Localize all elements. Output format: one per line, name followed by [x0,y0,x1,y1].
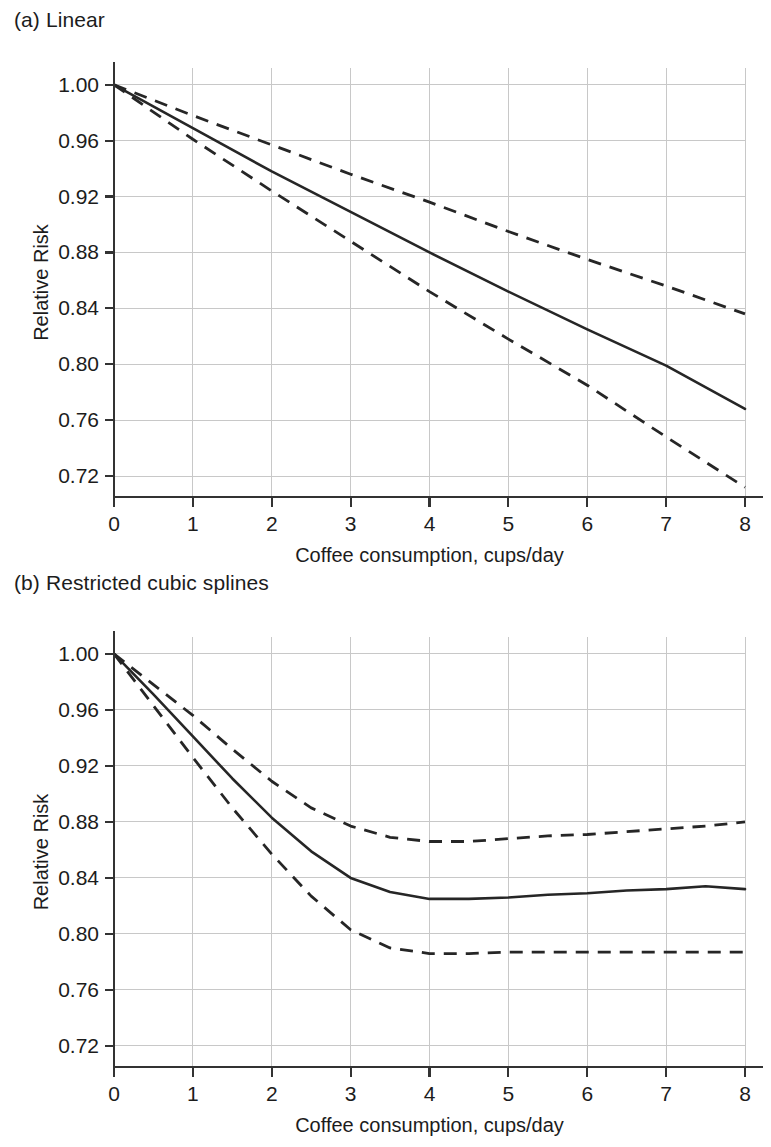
panel-b-title: (b) Restricted cubic splines [14,571,269,595]
y-tick-label: 0.96 [58,698,99,721]
y-tick-label: 0.76 [58,978,99,1001]
y-tick-label: 0.72 [58,464,99,487]
x-tick-label: 3 [345,512,357,535]
x-tick-label: 4 [424,1082,436,1105]
x-axis-title: Coffee consumption, cups/day [295,1114,564,1136]
x-tick-label: 8 [739,512,751,535]
x-tick-label: 2 [266,1082,278,1105]
y-tick-label: 1.00 [58,73,99,96]
y-tick-label: 0.84 [58,866,99,889]
x-tick-label: 2 [266,512,278,535]
x-tick-label: 8 [739,1082,751,1105]
x-tick-label: 3 [345,1082,357,1105]
y-tick-label: 0.84 [58,296,99,319]
x-tick-label: 0 [108,512,120,535]
x-tick-label: 5 [503,1082,515,1105]
y-tick-label: 0.88 [58,810,99,833]
panel-a-plot: 0.720.760.800.840.880.920.961.0001234567… [0,32,771,572]
x-tick-label: 7 [660,1082,672,1105]
x-tick-label: 1 [187,512,199,535]
figure-container: (a) Linear 0.720.760.800.840.880.920.961… [0,0,771,1147]
panel-a-linear: (a) Linear 0.720.760.800.840.880.920.961… [0,0,771,572]
y-tick-label: 0.80 [58,922,99,945]
y-tick-label: 0.80 [58,352,99,375]
y-tick-label: 0.76 [58,408,99,431]
x-tick-label: 5 [503,512,515,535]
x-tick-label: 7 [660,512,672,535]
x-tick-label: 0 [108,1082,120,1105]
y-tick-label: 0.72 [58,1034,99,1057]
x-axis-title: Coffee consumption, cups/day [295,544,564,566]
y-tick-label: 0.92 [58,754,99,777]
panel-b-plot: 0.720.760.800.840.880.920.961.0001234567… [0,595,771,1147]
y-axis-title: Relative Risk [30,793,52,911]
x-tick-label: 4 [424,512,436,535]
x-tick-label: 6 [581,512,593,535]
y-tick-label: 0.92 [58,185,99,208]
panel-b-splines: (b) Restricted cubic splines 0.720.760.8… [0,565,771,1147]
panel-a-title: (a) Linear [14,8,105,32]
y-tick-label: 1.00 [58,642,99,665]
x-tick-label: 6 [581,1082,593,1105]
x-tick-label: 1 [187,1082,199,1105]
y-tick-label: 0.96 [58,129,99,152]
y-tick-label: 0.88 [58,240,99,263]
y-axis-title: Relative Risk [30,223,52,341]
